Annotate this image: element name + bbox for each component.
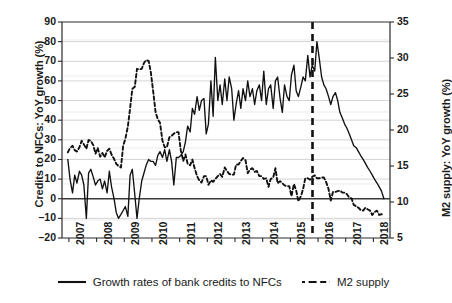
tick-marks-group: [58, 22, 394, 242]
x-tick-label: 2017: [351, 222, 363, 245]
y-tick-label-right: 25: [397, 87, 425, 99]
legend-label-credits: Growth rates of bank credits to NFCs: [93, 276, 282, 288]
x-tick-label: 2009: [129, 222, 141, 245]
y-tick-label-right: 35: [397, 15, 425, 27]
x-tick-label: 2007: [74, 222, 86, 245]
legend-item-m2: M2 supply: [301, 276, 389, 288]
y-tick-label-right: 10: [397, 195, 425, 207]
x-tick-label: 2015: [295, 222, 307, 245]
legend-swatch-solid: [57, 277, 87, 287]
y-tick-label-left: 30: [28, 133, 56, 145]
chart-legend: Growth rates of bank credits to NFCs M2 …: [0, 276, 446, 288]
x-tick-label: 2018: [378, 222, 390, 245]
legend-label-m2: M2 supply: [337, 276, 389, 288]
y-tick-label-left: 80: [28, 35, 56, 47]
y-tick-label-right: 15: [397, 159, 425, 171]
y-tick-label-left: –10: [28, 211, 56, 223]
gridlines-group: [62, 40, 390, 220]
y-tick-label-right: 20: [397, 123, 425, 135]
y-tick-label-left: 20: [28, 152, 56, 164]
y-tick-label-left: 50: [28, 94, 56, 106]
y-tick-label-left: 10: [28, 172, 56, 184]
data-series-group: [68, 42, 384, 219]
x-tick-label: 2008: [102, 222, 114, 245]
legend-swatch-dashed: [301, 277, 331, 287]
x-tick-label: 2016: [323, 222, 335, 245]
x-tick-label: 2013: [240, 222, 252, 245]
y-tick-label-right: 5: [397, 231, 425, 243]
y-tick-label-left: 0: [28, 192, 56, 204]
y-tick-label-left: –20: [28, 231, 56, 243]
x-tick-label: 2010: [157, 222, 169, 245]
x-tick-label: 2014: [268, 222, 280, 245]
y-tick-label-left: 40: [28, 113, 56, 125]
plot-frame-group: [62, 22, 390, 238]
y-tick-label-left: 70: [28, 54, 56, 66]
x-tick-label: 2011: [185, 222, 197, 245]
x-tick-label: 2012: [212, 222, 224, 245]
y-axis-right-title: M2 supply: YoY growth (%): [440, 38, 452, 258]
legend-item-credits: Growth rates of bank credits to NFCs: [57, 276, 282, 288]
y-tick-label-right: 30: [397, 51, 425, 63]
y-tick-label-left: 90: [28, 15, 56, 27]
y-tick-label-left: 60: [28, 74, 56, 86]
